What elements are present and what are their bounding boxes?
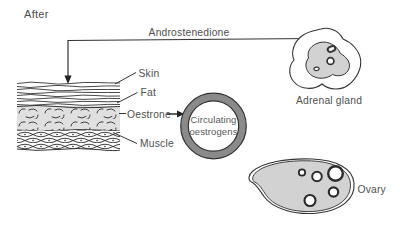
fat-label: Fat (141, 87, 156, 98)
arrow-down-icon (64, 76, 71, 85)
oestrone-pathway: Oestrone (119, 109, 185, 120)
ovary-follicle-1 (299, 169, 305, 175)
adrenal-gland: Adrenal gland (290, 28, 362, 106)
ovary: Ovary (249, 159, 387, 214)
ovary-label: Ovary (358, 184, 387, 195)
ovary-follicle-3 (328, 166, 343, 181)
fat-leader-line (117, 93, 138, 104)
oestrone-label: Oestrone (127, 109, 171, 120)
muscle-label: Muscle (140, 138, 174, 149)
circulating-label-line1: Circulating (191, 114, 237, 125)
muscle-layer (17, 131, 120, 151)
skin-leader-line (115, 73, 136, 85)
pathway-line (68, 39, 312, 77)
circulating-oestrogens-ring: Circulating oestrogens (181, 93, 247, 159)
adrenal-gland-label: Adrenal gland (296, 95, 362, 106)
androstenedione-pathway: Androstenedione (64, 27, 312, 84)
circulating-label-line2: oestrogens (189, 126, 237, 137)
adrenal-vesicle-2 (327, 58, 334, 65)
skin-layer (17, 82, 120, 105)
ovary-follicle-5 (305, 195, 316, 206)
diagram-title: After (24, 8, 49, 20)
tissue-block (17, 82, 120, 151)
fat-layer (17, 106, 120, 132)
oestrogen-pathway-diagram: After Androstenedione (0, 0, 403, 225)
ovary-follicle-2 (312, 172, 322, 182)
androstenedione-label: Androstenedione (149, 27, 230, 38)
diagram-canvas: After Androstenedione (0, 0, 403, 225)
skin-label: Skin (139, 68, 160, 79)
adrenal-vesicle-3 (314, 67, 320, 71)
ovary-follicle-4 (329, 187, 338, 196)
